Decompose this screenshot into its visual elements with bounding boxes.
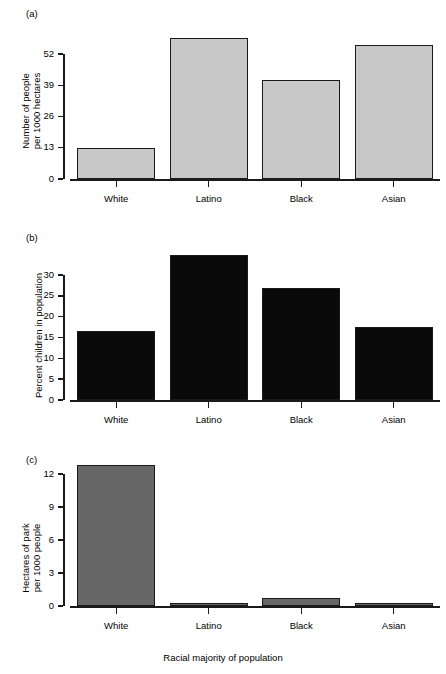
bar bbox=[355, 45, 433, 179]
y-axis-tick-label: 0 bbox=[18, 601, 54, 611]
y-axis-tick bbox=[58, 295, 63, 296]
bar bbox=[170, 255, 248, 400]
x-axis-tick-label: Asian bbox=[354, 414, 434, 425]
y-axis-tick bbox=[58, 53, 63, 54]
y-axis-tick-label: 6 bbox=[18, 535, 54, 545]
y-axis-tick bbox=[58, 539, 63, 540]
y-axis-line bbox=[63, 54, 65, 179]
x-axis-tick-label: Asian bbox=[354, 620, 434, 631]
x-axis-tick bbox=[208, 402, 209, 408]
x-axis-tick-label: Latino bbox=[169, 620, 249, 631]
y-axis-tick-label: 26 bbox=[18, 111, 54, 121]
y-axis-tick-label: 0 bbox=[18, 395, 54, 405]
y-axis-tick-label: 3 bbox=[18, 568, 54, 578]
panel-a-plot-area: 013263952WhiteLatinoBlackAsian bbox=[0, 0, 446, 230]
panel-b-plot-area: 051015202530WhiteLatinoBlackAsian bbox=[0, 230, 446, 452]
bar bbox=[262, 288, 340, 401]
y-axis-tick-label: 15 bbox=[18, 332, 54, 342]
y-axis-tick bbox=[58, 378, 63, 379]
x-axis-tick-label: Asian bbox=[354, 193, 434, 204]
x-axis-tick bbox=[301, 402, 302, 408]
x-axis-tick bbox=[301, 181, 302, 187]
x-axis-tick bbox=[393, 402, 394, 408]
y-axis-tick-label: 0 bbox=[18, 174, 54, 184]
x-axis-tick bbox=[301, 608, 302, 614]
y-axis-line bbox=[63, 474, 65, 606]
y-axis-tick bbox=[58, 274, 63, 275]
y-axis-line bbox=[63, 275, 65, 400]
y-axis-tick-label: 12 bbox=[18, 469, 54, 479]
bar bbox=[77, 148, 155, 179]
y-axis-tick-label: 25 bbox=[18, 290, 54, 300]
x-axis-tick-label: Black bbox=[261, 414, 341, 425]
y-axis-tick bbox=[58, 572, 63, 573]
y-axis-tick bbox=[58, 337, 63, 338]
y-axis-tick-label: 52 bbox=[18, 49, 54, 59]
panel-c-plot-area: 036912WhiteLatinoBlackAsian bbox=[0, 452, 446, 674]
x-axis-title: Racial majority of population bbox=[0, 652, 446, 663]
y-axis-tick bbox=[58, 316, 63, 317]
x-axis-line bbox=[70, 400, 440, 402]
x-axis-tick bbox=[208, 608, 209, 614]
panel-a: (a) Number of people per 1000 hectares 0… bbox=[0, 0, 446, 230]
x-axis-tick-label: Black bbox=[261, 193, 341, 204]
x-axis-tick bbox=[393, 181, 394, 187]
bar bbox=[77, 331, 155, 400]
x-axis-tick bbox=[393, 608, 394, 614]
x-axis-line bbox=[70, 606, 440, 608]
y-axis-tick bbox=[58, 178, 63, 179]
y-axis-tick bbox=[58, 147, 63, 148]
x-axis-tick bbox=[208, 181, 209, 187]
x-axis-tick bbox=[116, 402, 117, 408]
y-axis-tick-label: 39 bbox=[18, 80, 54, 90]
y-axis-tick bbox=[58, 506, 63, 507]
bar bbox=[170, 38, 248, 179]
bar bbox=[77, 465, 155, 606]
y-axis-tick bbox=[58, 473, 63, 474]
x-axis-tick-label: White bbox=[76, 414, 156, 425]
bar bbox=[262, 598, 340, 606]
x-axis-tick bbox=[116, 181, 117, 187]
x-axis-tick bbox=[116, 608, 117, 614]
y-axis-tick bbox=[58, 116, 63, 117]
y-axis-tick bbox=[58, 85, 63, 86]
figure-three-panel-bar-charts: (a) Number of people per 1000 hectares 0… bbox=[0, 0, 446, 674]
y-axis-tick-label: 10 bbox=[18, 353, 54, 363]
y-axis-tick-label: 5 bbox=[18, 374, 54, 384]
y-axis-tick bbox=[58, 358, 63, 359]
y-axis-tick bbox=[58, 605, 63, 606]
panel-c: (c) Hectares of park per 1000 people 036… bbox=[0, 452, 446, 674]
y-axis-tick-label: 30 bbox=[18, 270, 54, 280]
x-axis-tick-label: Latino bbox=[169, 193, 249, 204]
x-axis-tick-label: Black bbox=[261, 620, 341, 631]
y-axis-tick-label: 9 bbox=[18, 502, 54, 512]
y-axis-tick bbox=[58, 399, 63, 400]
x-axis-tick-label: White bbox=[76, 193, 156, 204]
y-axis-tick-label: 20 bbox=[18, 311, 54, 321]
panel-b: (b) Percent children in population 05101… bbox=[0, 230, 446, 452]
bar bbox=[355, 327, 433, 400]
x-axis-tick-label: White bbox=[76, 620, 156, 631]
x-axis-line bbox=[70, 179, 440, 181]
bar bbox=[262, 80, 340, 179]
y-axis-tick-label: 13 bbox=[18, 142, 54, 152]
x-axis-tick-label: Latino bbox=[169, 414, 249, 425]
